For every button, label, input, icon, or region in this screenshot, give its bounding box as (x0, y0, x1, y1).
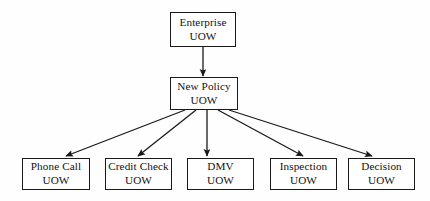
edge-new-policy-to-inspection (218, 110, 303, 156)
node-label-primary: Decision (361, 160, 402, 174)
node-label-secondary: UOW (125, 174, 152, 188)
node-label-secondary: UOW (290, 174, 317, 188)
node-new-policy[interactable]: New PolicyUOW (170, 77, 238, 110)
edge-new-policy-to-phone-call (66, 110, 185, 156)
node-dmv[interactable]: DMVUOW (187, 158, 254, 190)
edge-new-policy-to-decision (229, 110, 372, 156)
node-label-secondary: UOW (207, 174, 234, 188)
node-label-primary: Enterprise (180, 16, 227, 30)
node-label-secondary: UOW (190, 94, 217, 108)
node-label-secondary: UOW (368, 174, 395, 188)
node-inspection[interactable]: InspectionUOW (270, 158, 337, 190)
diagram-canvas: EnterpriseUOWNew PolicyUOWPhone CallUOWC… (0, 0, 430, 201)
node-label-primary: New Policy (177, 80, 231, 94)
node-decision[interactable]: DecisionUOW (348, 158, 415, 190)
node-credit-check[interactable]: Credit CheckUOW (105, 158, 172, 190)
node-label-secondary: UOW (189, 30, 216, 44)
node-label-primary: DMV (207, 160, 233, 174)
node-label-secondary: UOW (42, 174, 69, 188)
node-label-primary: Credit Check (108, 160, 169, 174)
node-phone-call[interactable]: Phone CallUOW (22, 158, 90, 190)
edge-new-policy-to-credit-check (138, 110, 196, 156)
node-enterprise[interactable]: EnterpriseUOW (170, 12, 236, 47)
node-label-primary: Phone Call (31, 160, 81, 174)
node-label-primary: Inspection (280, 160, 328, 174)
